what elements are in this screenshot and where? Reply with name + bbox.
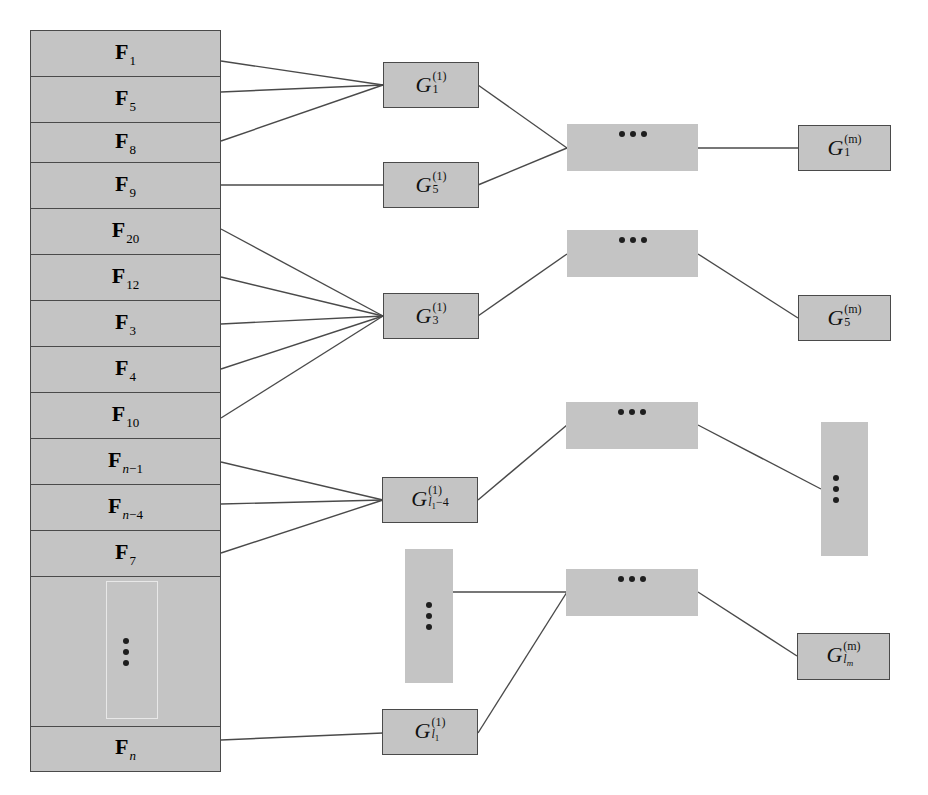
feature-label: F	[115, 539, 128, 564]
link-G1-midA	[478, 85, 567, 148]
feature-subscript: 4	[129, 369, 136, 384]
feature-label: F	[112, 217, 125, 242]
intermediate-ellipsis-a	[567, 124, 698, 171]
link-G3-midB	[478, 254, 567, 316]
link-G5-midA	[478, 148, 567, 185]
group-label: G	[826, 644, 842, 666]
link-F10-G3	[221, 316, 383, 418]
feature-subscript: 1	[129, 53, 136, 68]
feature-label: F	[108, 493, 121, 518]
feature-row-ellipsis	[31, 577, 220, 727]
link-Fn4-Gl14	[221, 500, 383, 504]
feature-column: F1 F5 F8 F9 F20 F12 F3 F4 F10 Fn−1 Fn−4	[30, 30, 221, 772]
feature-row-Fn: Fn	[31, 727, 220, 771]
feature-row-F4: F4	[31, 347, 220, 393]
feature-subscript: 10	[126, 415, 139, 430]
vertical-ellipsis-icon	[426, 602, 432, 630]
group-label: G	[416, 305, 432, 327]
feature-label: F	[115, 39, 128, 64]
link-midD-Glm	[698, 592, 797, 656]
group-G5-level1: G(1)5	[383, 162, 479, 208]
link-Gl1-midD	[478, 592, 567, 733]
group-Gl1-4-level1: G(1)l1−4	[382, 477, 478, 523]
feature-subscript: 9	[129, 185, 136, 200]
feature-subscript: 8	[129, 142, 136, 157]
ellipsis-frame	[106, 581, 158, 719]
feature-subscript: 3	[129, 323, 136, 338]
feature-label: F	[115, 85, 128, 110]
horizontal-ellipsis-icon	[619, 131, 647, 137]
feature-label: F	[115, 171, 128, 196]
feature-subscript: 7	[129, 553, 136, 568]
feature-label: F	[115, 309, 128, 334]
link-midB-G5m	[698, 254, 798, 318]
link-F4-G3	[221, 316, 383, 369]
intermediate-ellipsis-b	[567, 230, 698, 277]
feature-row-Fn-1: Fn−1	[31, 439, 220, 485]
horizontal-ellipsis-icon	[619, 237, 647, 243]
horizontal-ellipsis-icon	[618, 409, 646, 415]
horizontal-ellipsis-icon	[618, 576, 646, 582]
group-G1-levelm: G(m)1	[798, 125, 891, 171]
link-Gl14-midC	[478, 425, 567, 500]
feature-subscript: 5	[129, 99, 136, 114]
feature-subscript: n−4	[123, 507, 143, 522]
feature-row-F9: F9	[31, 163, 220, 209]
group-label: G	[415, 720, 431, 742]
feature-label: F	[112, 401, 125, 426]
group-label: G	[827, 307, 843, 329]
feature-label: F	[112, 263, 125, 288]
group-G1-level1: G(1)1	[383, 62, 479, 108]
feature-subscript: 12	[126, 277, 139, 292]
link-F20-G3	[221, 229, 383, 316]
feature-row-F3: F3	[31, 301, 220, 347]
feature-row-F5: F5	[31, 77, 220, 123]
intermediate-ellipsis-c	[566, 402, 698, 449]
vertical-ellipsis-icon	[833, 475, 839, 503]
link-F5-G1	[221, 85, 383, 92]
intermediate-ellipsis-d	[566, 569, 698, 616]
feature-subscript: n−1	[123, 461, 143, 476]
group-G5-levelm: G(m)5	[798, 295, 891, 341]
feature-row-F12: F12	[31, 255, 220, 301]
link-midC-ellm	[698, 425, 821, 489]
feature-row-F10: F10	[31, 393, 220, 439]
feature-label: F	[115, 734, 128, 759]
feature-label: F	[115, 128, 128, 153]
feature-row-F1: F1	[31, 31, 220, 77]
link-F8-G1	[221, 85, 383, 141]
link-F12-G3	[221, 277, 383, 316]
feature-label: F	[108, 447, 121, 472]
group-label: G	[411, 488, 427, 510]
group-G3-level1: G(1)3	[383, 293, 479, 339]
feature-label: F	[115, 355, 128, 380]
group-label: G	[416, 74, 432, 96]
feature-row-F8: F8	[31, 123, 220, 163]
feature-subscript: n	[129, 748, 136, 763]
link-Fn1-Gl14	[221, 462, 383, 500]
feature-hierarchy-diagram: F1 F5 F8 F9 F20 F12 F3 F4 F10 Fn−1 Fn−4	[0, 0, 928, 795]
group-Gl1-level1: G(1)l1	[382, 709, 478, 755]
group-Glm-levelm: G(m)lm	[797, 633, 890, 680]
levelm-ellipsis	[821, 422, 868, 556]
feature-row-Fn-4: Fn−4	[31, 485, 220, 531]
feature-subscript: 20	[126, 231, 139, 246]
link-F1-G1	[221, 61, 383, 85]
level1-ellipsis	[405, 549, 453, 683]
feature-row-F20: F20	[31, 209, 220, 255]
group-label: G	[827, 137, 843, 159]
link-F7-Gl14	[221, 500, 383, 553]
link-Fn-Gl1	[221, 733, 383, 740]
group-label: G	[416, 174, 432, 196]
link-F3-G3	[221, 316, 383, 324]
feature-row-F7: F7	[31, 531, 220, 577]
